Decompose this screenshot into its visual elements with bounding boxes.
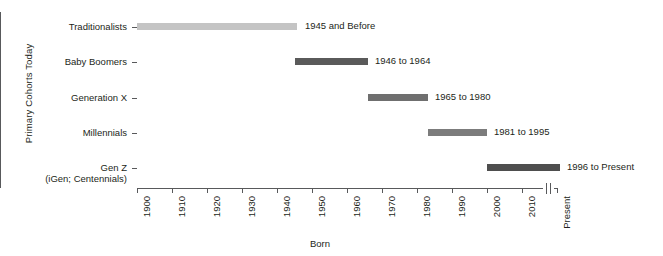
y-label-generation-x: Generation X (7, 92, 127, 103)
bar-gen-z (487, 164, 560, 171)
y-label-millennials: Millennials (7, 127, 127, 138)
bar-generation-x (368, 94, 428, 101)
x-tick-1940 (277, 188, 278, 193)
x-tick-label-1940: 1940 (281, 196, 292, 217)
bar-millennials (428, 129, 487, 136)
x-tick-label-1900: 1900 (141, 196, 152, 217)
y-label-gen-z-sub: (iGen; Centennials) (7, 173, 127, 184)
x-tick-1930 (242, 188, 243, 193)
x-tick-1900 (137, 188, 138, 193)
bar-label-millennials: 1981 to 1995 (494, 127, 549, 137)
x-tick-present (557, 188, 558, 193)
y-tick-baby-boomers (132, 62, 137, 63)
y-tick-millennials (132, 133, 137, 134)
y-axis-line (0, 12, 1, 188)
x-tick-label-1950: 1950 (316, 196, 327, 217)
x-tick-2000 (487, 188, 488, 193)
x-tick-label-1970: 1970 (386, 196, 397, 217)
x-tick-label-1930: 1930 (246, 196, 257, 217)
y-label-traditionalists: Traditionalists (7, 21, 127, 32)
x-tick-2010 (522, 188, 523, 193)
x-tick-label-2010: 2010 (526, 196, 537, 217)
x-tick-label-1920: 1920 (211, 196, 222, 217)
x-tick-1990 (452, 188, 453, 193)
x-tick-1950 (312, 188, 313, 193)
bar-label-gen-z: 1996 to Present (567, 162, 634, 172)
x-tick-label-1960: 1960 (351, 196, 362, 217)
x-tick-1970 (382, 188, 383, 193)
axis-break-icon (543, 183, 554, 194)
x-axis-title: Born (310, 238, 330, 249)
bar-label-traditionalists: 1945 and Before (305, 21, 375, 31)
bar-traditionalists (137, 23, 297, 30)
y-label-baby-boomers: Baby Boomers (7, 56, 127, 67)
x-tick-1960 (347, 188, 348, 193)
y-tick-gen-z (132, 168, 137, 169)
x-tick-label-1910: 1910 (176, 196, 187, 217)
x-tick-1920 (207, 188, 208, 193)
x-tick-label-present: Present (561, 196, 572, 229)
bar-label-generation-x: 1965 to 1980 (435, 92, 490, 102)
y-label-gen-z: Gen Z (7, 162, 127, 173)
y-tick-generation-x (132, 98, 137, 99)
x-tick-label-1990: 1990 (456, 196, 467, 217)
bar-baby-boomers (295, 58, 368, 65)
x-tick-label-2000: 2000 (491, 196, 502, 217)
x-tick-1980 (417, 188, 418, 193)
cohort-timeline-chart: Primary Cohorts Today Traditionalists 19… (0, 0, 663, 256)
bar-label-baby-boomers: 1946 to 1964 (375, 56, 430, 66)
x-tick-label-1980: 1980 (421, 196, 432, 217)
x-tick-1910 (172, 188, 173, 193)
